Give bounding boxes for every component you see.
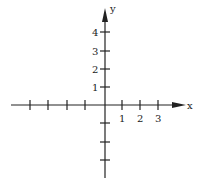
y-tick-label: 1 — [92, 82, 98, 93]
x-axis-label: x — [187, 100, 193, 111]
y-axis — [100, 16, 110, 178]
x-tick-label: 3 — [155, 113, 161, 124]
x-axis-arrow-icon — [172, 102, 186, 108]
x-axis — [11, 100, 178, 110]
x-tick-label: 1 — [119, 113, 125, 124]
y-tick-label: 2 — [92, 64, 98, 75]
y-tick-label: 3 — [92, 46, 98, 57]
coordinate-plane: y x 4 3 2 1 1 2 3 — [0, 0, 197, 179]
y-axis-label: y — [109, 3, 116, 14]
y-axis-arrow-icon — [102, 8, 108, 22]
y-tick-label: 4 — [92, 27, 98, 38]
x-tick-label: 2 — [137, 113, 143, 124]
